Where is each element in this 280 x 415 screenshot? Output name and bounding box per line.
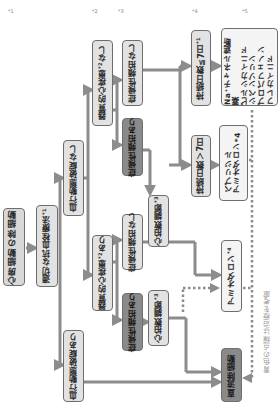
node-sym-none-upper-label: 症候性頻拍なし — [128, 43, 137, 103]
footnote-mark: *2 — [97, 252, 103, 259]
footnote-mark: *1 — [8, 8, 14, 14]
node-shd-none-suffix: なし — [98, 45, 107, 62]
node-symptomatic-yes-upper: 症候性頻拍あり — [122, 118, 143, 176]
node-sym-yes-lower-label: 症候性頻拍あり — [128, 292, 137, 352]
footnote-mark: *2 — [97, 62, 103, 69]
footnote-mark: *2 — [92, 8, 98, 14]
footnote-mark: *4 — [226, 247, 232, 254]
node-structural-heart-disease-present: 器質的心疾患*2あり — [92, 235, 113, 311]
footnote-mark: *3 — [118, 8, 124, 14]
node-rate-control-lower: 心拍数調節*3 — [148, 290, 169, 346]
footnote-mark: *3 — [153, 196, 159, 203]
dotted-line-note-text: 青色の点線は治療を考慮 — [262, 290, 272, 373]
node-symptomatic-yes-lower: 症候性頻拍あり — [122, 293, 143, 351]
node-structural-heart-disease-none: 器質的心疾患*2なし — [92, 40, 113, 126]
node-shd-present-label: 器質的心疾患 — [98, 260, 107, 311]
node-duration-gt-7days: 持続日数＞7日 — [191, 135, 211, 197]
node-dur-gt7-label: 持続日数＞7日 — [196, 137, 205, 194]
node-dc-cardioversion-label: 直流除細動 — [227, 354, 236, 397]
node-shd-none-label: 器質的心疾患 — [98, 70, 107, 121]
node-duration-le-7days: 持続日数≦7日*1 — [191, 30, 211, 106]
node-rate-upper-label: 心拍数調節 — [154, 203, 163, 246]
node-dur-le7-label: 持続日数≦7日 — [197, 44, 206, 100]
node-na-channel-blockers: Na⁺チャネル遮断薬 ピルシカイニド シベンゾリン プロパフェノン フレカイニド — [221, 28, 278, 106]
node-sym-yes-upper-label: 症候性頻拍あり — [128, 117, 137, 177]
node-anticoagulation: 適切な抗血栓療法*1 — [36, 205, 58, 287]
node-hemodynamic-unstable-label: 血行動態破綻あり — [69, 332, 78, 400]
node-dc-cardioversion: 直流除細動 — [221, 348, 242, 402]
node-bepridil-amiodarone: ベプリジル アミオダロン*4 — [219, 125, 248, 201]
drug-line: アミオダロン*4 — [234, 132, 243, 193]
dotted-line-note: 青色の点線は治療を考慮 — [262, 290, 274, 410]
node-hemodynamic-unstable: 血行動態破綻あり — [63, 330, 84, 402]
node-rate-control-upper: 心拍数調節*3 — [148, 195, 169, 247]
node-amiodarone-label: アミオダロン — [227, 254, 236, 305]
footnote-mark: *3 — [153, 293, 159, 300]
node-sym-none-lower-label: 症候性頻拍なし — [128, 212, 137, 272]
footnote-mark: *1 — [195, 37, 201, 44]
node-hemodynamic-stable: 血行動態破綻なし — [63, 140, 84, 216]
node-amiodarone: アミオダロン*4 — [221, 240, 242, 312]
footnote-mark: *5 — [242, 8, 248, 14]
node-hemodynamic-stable-label: 血行動態破綻なし — [69, 144, 78, 212]
footnote-mark: *1 — [41, 208, 47, 215]
footnote-mark: *4 — [192, 8, 198, 14]
node-rate-lower-label: 心拍数調節 — [154, 300, 163, 343]
node-title: 心房細動の除細動 — [3, 208, 25, 286]
drug-line: フレカイニド — [267, 29, 276, 105]
node-title-label: 心房細動の除細動 — [9, 209, 19, 285]
node-symptomatic-none-upper: 症候性頻拍なし — [122, 40, 143, 106]
node-anticoagulation-label: 適切な抗血栓療法 — [43, 216, 52, 284]
drug-line: Na⁺チャネル遮断薬 — [224, 29, 241, 105]
node-symptomatic-none-lower: 症候性頻拍なし — [122, 214, 143, 270]
node-shd-present-suffix: あり — [98, 235, 107, 252]
